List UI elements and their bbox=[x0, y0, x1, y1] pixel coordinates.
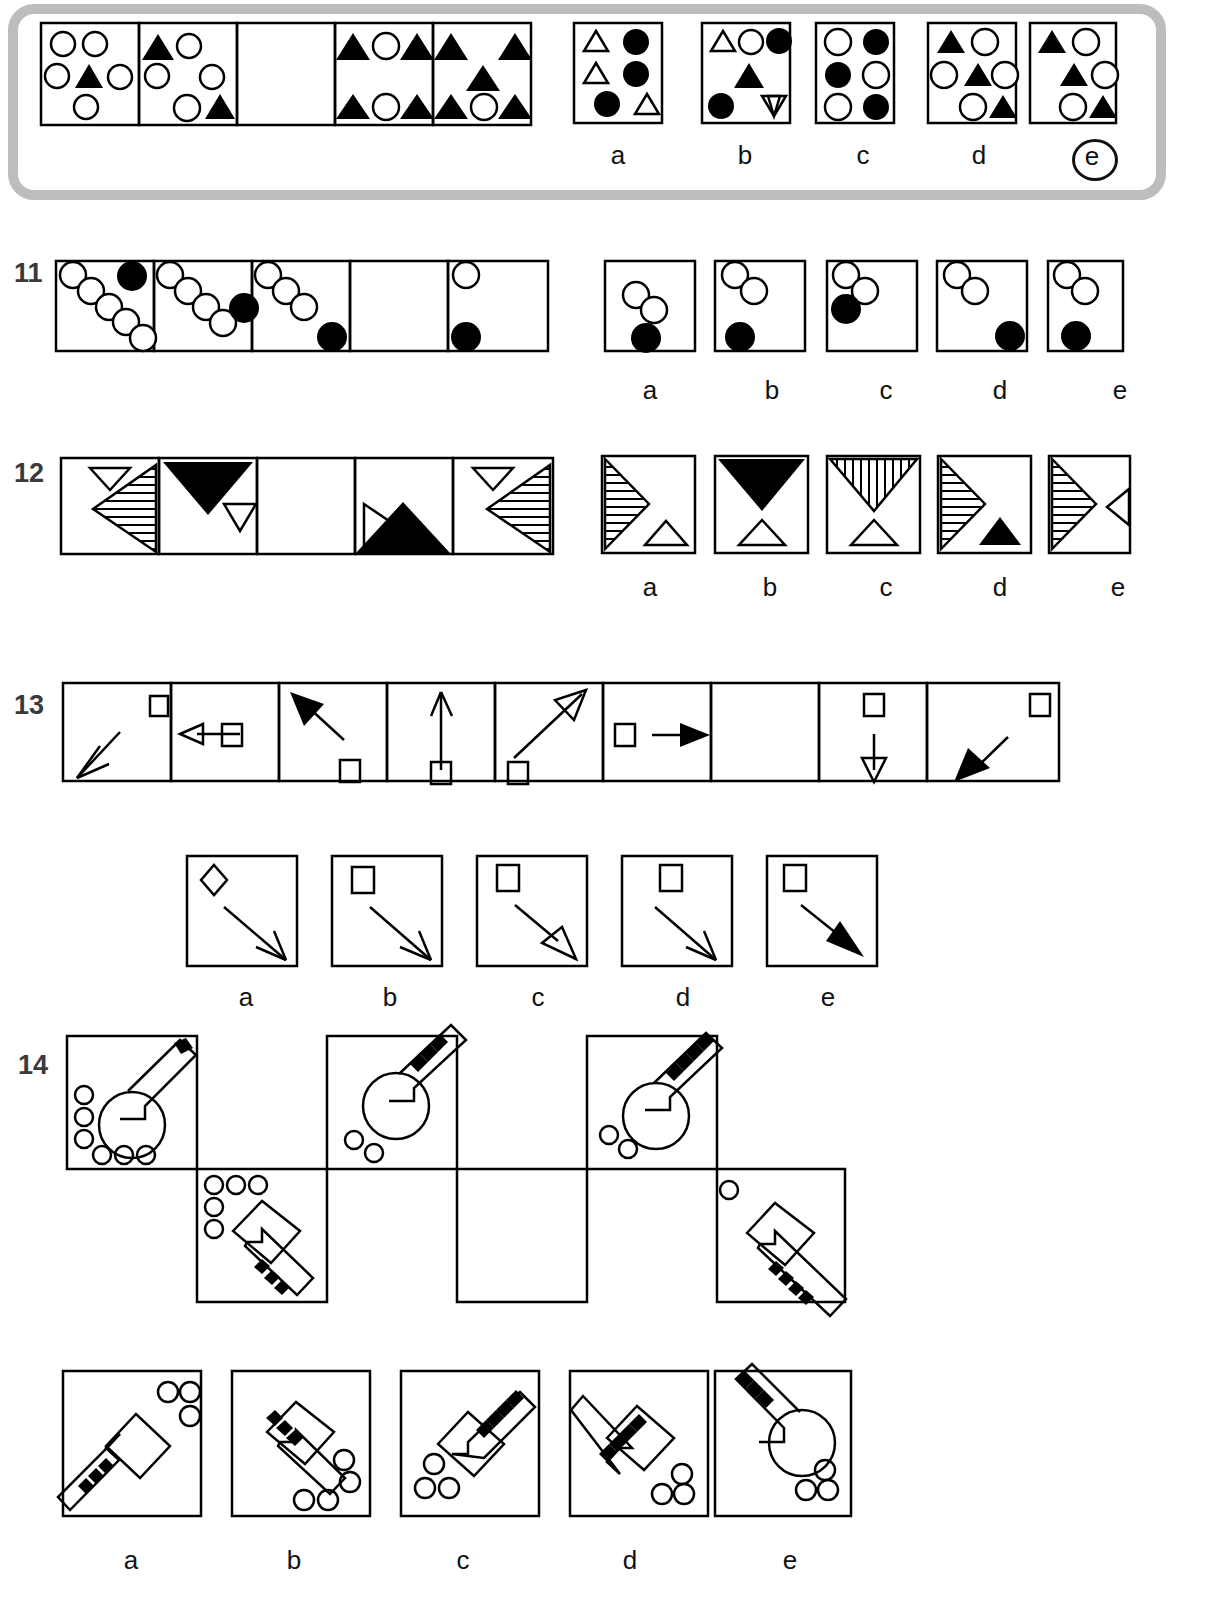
q13-option-label-d[interactable]: d bbox=[663, 982, 703, 1013]
q13-option-label-c[interactable]: c bbox=[518, 982, 558, 1013]
question-13-number: 13 bbox=[14, 690, 44, 721]
q14-option-label-c[interactable]: c bbox=[443, 1545, 483, 1576]
q12-option-label-d[interactable]: d bbox=[980, 572, 1020, 603]
q12-options[interactable] bbox=[601, 455, 1131, 555]
q11-option-label-d[interactable]: d bbox=[980, 375, 1020, 406]
q12-option-label-a[interactable]: a bbox=[630, 572, 670, 603]
q13-option-label-e[interactable]: e bbox=[808, 982, 848, 1013]
q14-option-label-e[interactable]: e bbox=[770, 1545, 810, 1576]
q10-options[interactable] bbox=[573, 22, 1118, 126]
q11-option-label-e[interactable]: e bbox=[1100, 375, 1140, 406]
q10-answer-marker bbox=[1072, 139, 1118, 181]
q14-options[interactable] bbox=[62, 1370, 852, 1560]
q13-sequence bbox=[62, 682, 1062, 782]
q10-sequence bbox=[40, 22, 540, 126]
q10-option-label-d[interactable]: d bbox=[959, 140, 999, 171]
q11-options[interactable] bbox=[604, 260, 1124, 352]
q11-option-label-b[interactable]: b bbox=[752, 375, 792, 406]
q12-option-label-e[interactable]: e bbox=[1098, 572, 1138, 603]
question-14-number: 14 bbox=[18, 1050, 48, 1081]
q10-option-label-c[interactable]: c bbox=[843, 140, 883, 171]
q13-options[interactable] bbox=[186, 855, 886, 967]
q11-option-label-a[interactable]: a bbox=[630, 375, 670, 406]
q10-option-label-a[interactable]: a bbox=[598, 140, 638, 171]
q10-option-label-b[interactable]: b bbox=[725, 140, 765, 171]
q11-sequence bbox=[55, 260, 555, 352]
q13-option-label-a[interactable]: a bbox=[226, 982, 266, 1013]
q14-option-label-d[interactable]: d bbox=[610, 1545, 650, 1576]
q14-option-label-b[interactable]: b bbox=[274, 1545, 314, 1576]
q12-option-label-b[interactable]: b bbox=[750, 572, 790, 603]
q11-option-label-c[interactable]: c bbox=[866, 375, 906, 406]
q13-option-label-b[interactable]: b bbox=[370, 982, 410, 1013]
q12-sequence bbox=[60, 457, 560, 555]
question-12-number: 12 bbox=[14, 458, 44, 489]
q12-option-label-c[interactable]: c bbox=[866, 572, 906, 603]
q14-option-label-a[interactable]: a bbox=[111, 1545, 151, 1576]
question-11-number: 11 bbox=[14, 258, 43, 289]
q14-sequence bbox=[66, 1035, 846, 1305]
